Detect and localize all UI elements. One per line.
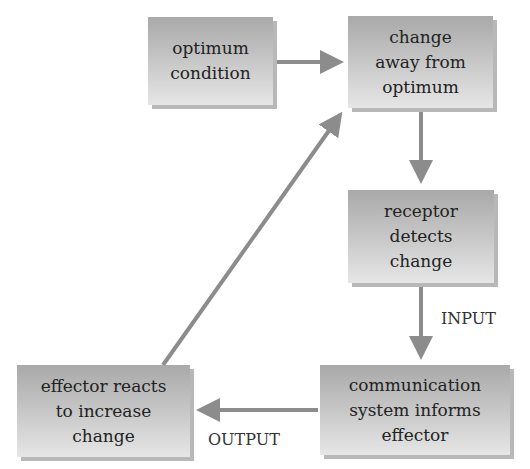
node-receptor-detects-change: receptor detects change: [348, 190, 494, 283]
node-optimum-condition: optimum condition: [148, 17, 273, 105]
node-communication-label: communication system informs effector: [349, 373, 481, 448]
arrow-effector-to-change: [163, 115, 340, 365]
node-change-away-from-optimum: change away from optimum: [348, 16, 493, 108]
node-effector-reacts: effector reacts to increase change: [17, 365, 190, 457]
input-label: INPUT: [441, 309, 496, 328]
node-optimum-condition-label: optimum condition: [170, 36, 250, 86]
output-label: OUTPUT: [208, 430, 280, 449]
node-receptor-label: receptor detects change: [384, 199, 458, 274]
node-communication-system: communication system informs effector: [320, 365, 510, 455]
node-change-label: change away from optimum: [375, 25, 466, 100]
node-effector-label: effector reacts to increase change: [41, 374, 167, 449]
